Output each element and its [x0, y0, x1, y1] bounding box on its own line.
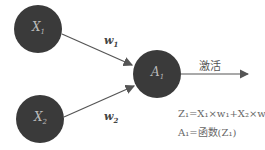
- equation-a: A₁=函数(Z₁): [178, 124, 236, 139]
- edge-x1-a1: [62, 34, 132, 65]
- edge-x2-a1: [64, 86, 134, 117]
- weight-w1: w1: [104, 34, 118, 49]
- weight-w2: w2: [104, 110, 118, 125]
- node-x2-label: X2: [34, 110, 47, 126]
- node-x1-label: X1: [32, 20, 45, 36]
- node-a1-label: A1: [151, 65, 164, 81]
- activation-label: 激活: [199, 57, 221, 73]
- equation-z: Z₁=X₁×w₁+X₂×w₂: [178, 108, 265, 119]
